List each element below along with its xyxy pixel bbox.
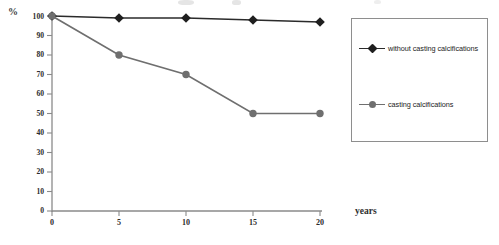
line-chart-figure: % years 100 90 80 70 60 50 40 30 20 10 0… bbox=[0, 0, 499, 245]
series-without-casting-calcifications bbox=[47, 11, 325, 27]
legend-item-without-casting-calcifications: without casting calcifications bbox=[359, 43, 478, 53]
series-casting-calcifications bbox=[48, 12, 323, 117]
legend-swatch-circle-marker bbox=[359, 99, 385, 109]
legend-item-casting-calcifications: casting calcifications bbox=[359, 99, 453, 109]
legend-label-without-casting-calcifications: without casting calcifications bbox=[388, 44, 478, 53]
series-markers-circle bbox=[48, 12, 323, 117]
series-markers-diamond bbox=[47, 11, 325, 27]
x-axis-ticks bbox=[52, 211, 320, 216]
legend-label-casting-calcifications: casting calcifications bbox=[388, 100, 453, 109]
chart-legend: without casting calcifications casting c… bbox=[351, 18, 488, 142]
legend-swatch-diamond-marker bbox=[359, 43, 385, 53]
y-axis-ticks bbox=[47, 16, 52, 211]
